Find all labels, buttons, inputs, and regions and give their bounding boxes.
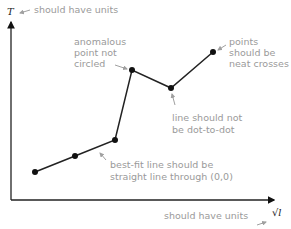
- x-units-note: should have units: [164, 210, 248, 221]
- best-fit-note: best-fit line should be straight line th…: [110, 159, 233, 182]
- anomalous-note: anomalous point not circled: [74, 36, 129, 69]
- crosses-arrow: [218, 45, 226, 50]
- dot-to-dot-note: line should not be dot-to-dot: [172, 112, 245, 135]
- anomalous-arrow: [115, 65, 127, 69]
- best-fit-arrow: [100, 153, 106, 160]
- dot-to-dot-arrow: [172, 94, 175, 105]
- chart: T √l should have units anomalous point n…: [0, 0, 291, 229]
- y-axis-label: T: [7, 6, 15, 17]
- crosses-note: points should be neat crosses: [229, 36, 289, 69]
- x-axis-label: √l: [272, 207, 282, 218]
- y-units-note: should have units: [34, 4, 118, 15]
- y-units-arrow: [20, 10, 30, 13]
- x-units-arrow: [257, 222, 266, 225]
